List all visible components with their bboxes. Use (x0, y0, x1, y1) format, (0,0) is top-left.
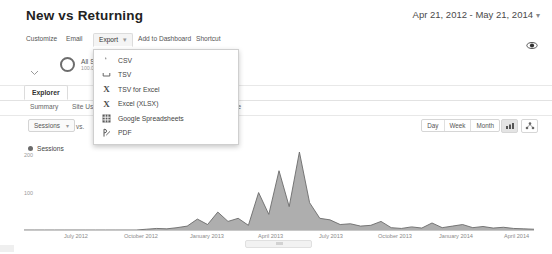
menu-item-google-spreadsheets[interactable]: Google Spreadsheets (94, 111, 238, 126)
menu-item-csv[interactable]: CSV (94, 53, 238, 68)
chart-legend: Sessions (28, 145, 64, 152)
export-dropdown-menu: CSV TSV X TSV for Excel X Excel (XLSX) (93, 49, 239, 145)
excel-x-icon: X (100, 84, 113, 94)
segment-donut-icon (60, 57, 75, 72)
x-tick-january-2014: January 2014 (439, 233, 473, 239)
chevron-down-icon: ▾ (536, 11, 540, 20)
toolbar-customize-button[interactable]: Customize (26, 35, 57, 42)
toolbar-export-button[interactable]: Export ▾ (93, 33, 133, 47)
pdf-icon (100, 128, 113, 138)
menu-item-pdf[interactable]: PDF (94, 126, 238, 141)
toolbar-shortcut-button[interactable]: Shortcut (196, 35, 221, 42)
analytics-report-page: New vs Returning Apr 21, 2012 - May 21, … (0, 0, 552, 254)
scroll-indicator[interactable] (0, 245, 14, 252)
report-toolbar: Customize Email Export ▾ Add to Dashboar… (0, 32, 552, 50)
menu-item-excel-xlsx-label: Excel (XLSX) (118, 100, 158, 107)
x-tick-july-2012: July 2012 (64, 233, 88, 239)
segment-row: All Sessions 100.00% (0, 49, 552, 86)
chevron-down-icon: ▾ (123, 36, 127, 43)
bar-chart-icon[interactable] (501, 119, 518, 133)
date-range-picker[interactable]: Apr 21, 2012 - May 21, 2014▾ (413, 9, 540, 20)
metric-select[interactable]: Sessions ▾ (28, 119, 75, 132)
granularity-month-button[interactable]: Month (471, 120, 499, 131)
x-tick-january-2013: January 2013 (190, 233, 224, 239)
slider-handle[interactable] (276, 242, 283, 245)
granularity-toggle-group: Day Week Month (421, 119, 500, 132)
chart-plot-area (24, 152, 534, 230)
sessions-time-series-chart: 200 100 (24, 152, 534, 230)
subtab-summary[interactable]: Summary (30, 103, 58, 110)
scatter-plot-icon[interactable] (521, 119, 538, 133)
chevron-down-icon[interactable] (30, 62, 39, 80)
page-title: New vs Returning (26, 8, 143, 23)
svg-text:X: X (103, 99, 110, 109)
menu-item-tsv-for-excel-label: TSV for Excel (118, 86, 160, 93)
date-range-label: Apr 21, 2012 - May 21, 2014 (413, 9, 533, 20)
x-axis-line (24, 230, 534, 231)
vs-label: vs. (76, 123, 84, 130)
granularity-day-button[interactable]: Day (422, 120, 444, 131)
menu-item-pdf-label: PDF (118, 129, 132, 136)
menu-item-excel-xlsx[interactable]: X Excel (XLSX) (94, 97, 238, 112)
legend-color-swatch (28, 146, 33, 151)
grid-sheets-icon (100, 114, 113, 123)
tsv-file-icon (100, 70, 113, 79)
x-tick-april-2014: April 2014 (504, 233, 529, 239)
x-tick-october-2012: October 2012 (124, 233, 158, 239)
legend-series-label: Sessions (37, 145, 64, 152)
granularity-week-button[interactable]: Week (445, 120, 472, 131)
toolbar-email-button[interactable]: Email (66, 35, 83, 42)
menu-item-csv-label: CSV (118, 57, 132, 64)
metric-select-value: Sessions (34, 122, 60, 129)
svg-text:X: X (103, 84, 110, 94)
toolbar-add-to-dashboard-button[interactable]: Add to Dashboard (138, 35, 191, 42)
menu-item-tsv[interactable]: TSV (94, 68, 238, 83)
date-range-slider[interactable] (245, 240, 312, 248)
menu-item-google-spreadsheets-label: Google Spreadsheets (118, 115, 184, 122)
menu-item-tsv-label: TSV (118, 71, 131, 78)
menu-item-tsv-for-excel[interactable]: X TSV for Excel (94, 82, 238, 97)
toolbar-export-label: Export (99, 36, 118, 43)
excel-x-icon: X (100, 99, 113, 109)
x-tick-july-2013: July 2013 (319, 233, 343, 239)
sub-tab-bar: Summary Site Usage Ecommerce (0, 100, 552, 116)
metric-controls-row: Sessions ▾ vs. Day Week Month (0, 115, 552, 139)
tab-explorer[interactable]: Explorer (24, 85, 68, 100)
x-tick-october-2013: October 2013 (378, 233, 412, 239)
explorer-tab-bar: Explorer (0, 85, 552, 101)
x-tick-april-2013: April 2013 (258, 233, 283, 239)
csv-file-icon (100, 56, 113, 65)
view-toggle-group (501, 119, 538, 133)
chevron-down-icon: ▾ (66, 122, 69, 129)
